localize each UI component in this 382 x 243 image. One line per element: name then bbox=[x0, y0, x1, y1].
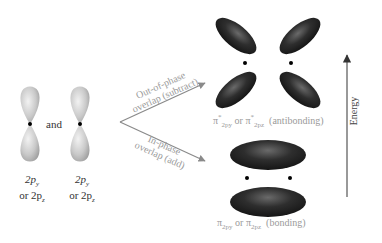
p-orbital-1-label: 2py or 2pz bbox=[12, 174, 52, 204]
bonding-orbital bbox=[230, 140, 306, 217]
nucleus-dot bbox=[78, 122, 82, 126]
p-orbital-2-label: 2py or 2pz bbox=[62, 174, 102, 204]
p-orbital-2 bbox=[70, 87, 89, 162]
energy-axis-label: Energy bbox=[349, 97, 359, 126]
bonding-label: π2py or π2pz (bonding) bbox=[217, 218, 306, 231]
and-label: and bbox=[46, 119, 62, 130]
antibonding-label: π*2py or π*2pz (antibonding) bbox=[213, 114, 324, 129]
p-orbital-1 bbox=[20, 87, 39, 162]
antibonding-orbital bbox=[210, 12, 326, 115]
nucleus-dot bbox=[28, 122, 32, 126]
